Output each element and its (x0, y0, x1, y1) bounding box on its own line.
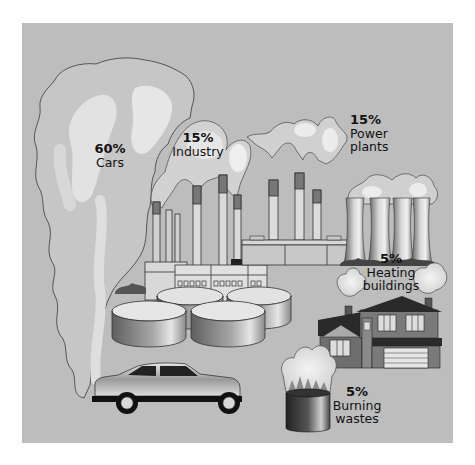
power-plants-percentage: 15% (350, 113, 392, 127)
label-industry: 15% Industry (170, 131, 226, 158)
burning-wastes-label-line2: wastes (332, 412, 382, 425)
cars-percentage: 60% (88, 142, 132, 156)
power-plants-label-line1: Power (350, 127, 392, 140)
cars-label: Cars (88, 156, 132, 169)
label-cars: 60% Cars (88, 142, 132, 169)
car (92, 363, 242, 414)
burning-wastes-label-line1: Burning (332, 399, 382, 412)
pollution-illustration (0, 0, 475, 465)
power-plants-label-line2: plants (350, 140, 392, 153)
industry-percentage: 15% (170, 131, 226, 145)
heating-buildings-label-line2: buildings (362, 279, 420, 292)
heating-buildings-percentage: 5% (362, 252, 420, 266)
label-heating-buildings: 5% Heating buildings (362, 252, 420, 292)
label-power-plants: 15% Power plants (350, 113, 392, 153)
label-burning-wastes: 5% Burning wastes (332, 385, 382, 425)
industry-label: Industry (170, 145, 226, 158)
heating-buildings-label-line1: Heating (362, 266, 420, 279)
burning-wastes-percentage: 5% (332, 385, 382, 399)
burning-barrel (281, 346, 336, 432)
